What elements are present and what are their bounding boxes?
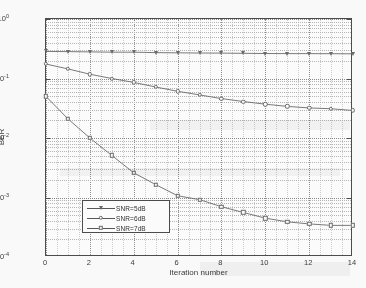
x-tick-label: 12 — [304, 258, 312, 267]
data-point-marker-square — [197, 197, 201, 201]
data-point-marker-triangle-down — [329, 52, 333, 56]
legend-label: SNR=6dB — [116, 215, 146, 222]
data-point-marker-square — [132, 171, 136, 175]
data-point-marker-triangle-down — [154, 51, 158, 55]
legend-sample — [86, 213, 116, 223]
legend-entry[interactable]: SNR=7dB — [83, 223, 169, 233]
y-tick-label: 10-2 — [0, 132, 9, 143]
x-tick-label: 6 — [174, 258, 178, 267]
data-point-marker-triangle-down — [285, 52, 289, 56]
data-point-marker-triangle-down — [132, 50, 136, 54]
legend-entry[interactable]: SNR=5dB — [83, 203, 169, 213]
legend-sample — [86, 223, 116, 233]
data-point-marker-triangle-down — [263, 52, 267, 56]
legend-marker-triangle-down — [99, 206, 103, 210]
y-tick-label: 10-1 — [0, 72, 9, 83]
data-point-marker-square — [219, 205, 223, 209]
data-point-marker-triangle-down — [66, 50, 70, 54]
legend-marker-circle — [99, 216, 103, 220]
data-point-marker-circle — [351, 108, 355, 112]
x-tick-label: 14 — [348, 258, 356, 267]
legend-box[interactable]: SNR=5dBSNR=6dBSNR=7dB — [82, 200, 170, 233]
data-point-marker-triangle-down — [307, 52, 311, 56]
y-tick-label: 10-3 — [0, 191, 9, 202]
data-point-marker-triangle-down — [241, 51, 245, 55]
data-point-marker-triangle-down — [176, 51, 180, 55]
data-point-marker-triangle-down — [198, 51, 202, 55]
data-point-marker-square — [153, 182, 157, 186]
data-point-marker-square — [175, 194, 179, 198]
legend-marker-square — [99, 226, 103, 230]
data-point-marker-triangle-down — [351, 52, 355, 56]
figure-canvas: BER Iteration number 10010-110-210-310-4… — [0, 0, 366, 288]
x-tick-label: 10 — [260, 258, 268, 267]
data-point-marker-triangle-down — [88, 50, 92, 54]
data-point-marker-square — [88, 136, 92, 140]
data-point-marker-triangle-down — [219, 51, 223, 55]
data-point-marker-square — [307, 222, 311, 226]
x-tick-label: 4 — [131, 258, 135, 267]
data-point-marker-square — [351, 223, 355, 227]
x-axis-title: Iteration number — [45, 268, 352, 277]
data-point-marker-square — [263, 216, 267, 220]
legend-entry[interactable]: SNR=6dB — [83, 213, 169, 223]
legend-sample — [86, 203, 116, 213]
data-point-marker-triangle-down — [44, 49, 48, 53]
data-point-marker-square — [285, 220, 289, 224]
data-point-marker-square — [44, 94, 48, 98]
legend-label: SNR=7dB — [116, 225, 146, 232]
data-point-marker-square — [241, 210, 245, 214]
data-point-marker-triangle-down — [110, 50, 114, 54]
legend-label: SNR=5dB — [116, 205, 146, 212]
x-tick-label: 0 — [43, 258, 47, 267]
y-tick-label: 100 — [0, 13, 9, 24]
data-point-marker-square — [66, 117, 70, 121]
x-tick-label: 2 — [87, 258, 91, 267]
x-tick-label: 8 — [218, 258, 222, 267]
series-line-snr-6db — [46, 64, 353, 110]
y-tick-label: 10-4 — [0, 251, 9, 262]
data-point-marker-square — [110, 153, 114, 157]
data-point-marker-square — [329, 223, 333, 227]
